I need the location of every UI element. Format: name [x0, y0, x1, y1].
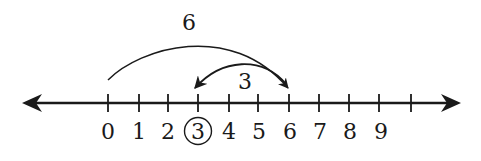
tick-label-6: 6	[283, 119, 297, 144]
tick-label-9: 9	[374, 119, 388, 144]
jump-arc-6: 6	[108, 10, 288, 88]
tick-label-5: 5	[252, 119, 266, 144]
tick-label-8: 8	[343, 119, 357, 144]
number-line-diagram: 0 1 2 3 4 5 6 7 8 9 6 3	[0, 0, 481, 161]
tick-label-1: 1	[132, 119, 146, 144]
jump-label-3: 3	[238, 69, 252, 94]
tick-labels: 0 1 2 3 4 5 6 7 8 9	[101, 119, 388, 144]
tick-label-0: 0	[101, 119, 115, 144]
jump-arc-3: 3	[195, 64, 286, 94]
tick-label-4: 4	[222, 119, 236, 144]
tick-label-7: 7	[313, 119, 327, 144]
tick-label-2: 2	[161, 119, 175, 144]
number-line-axis	[22, 94, 461, 112]
tick-label-3: 3	[191, 119, 205, 144]
jump-label-6: 6	[182, 10, 196, 35]
